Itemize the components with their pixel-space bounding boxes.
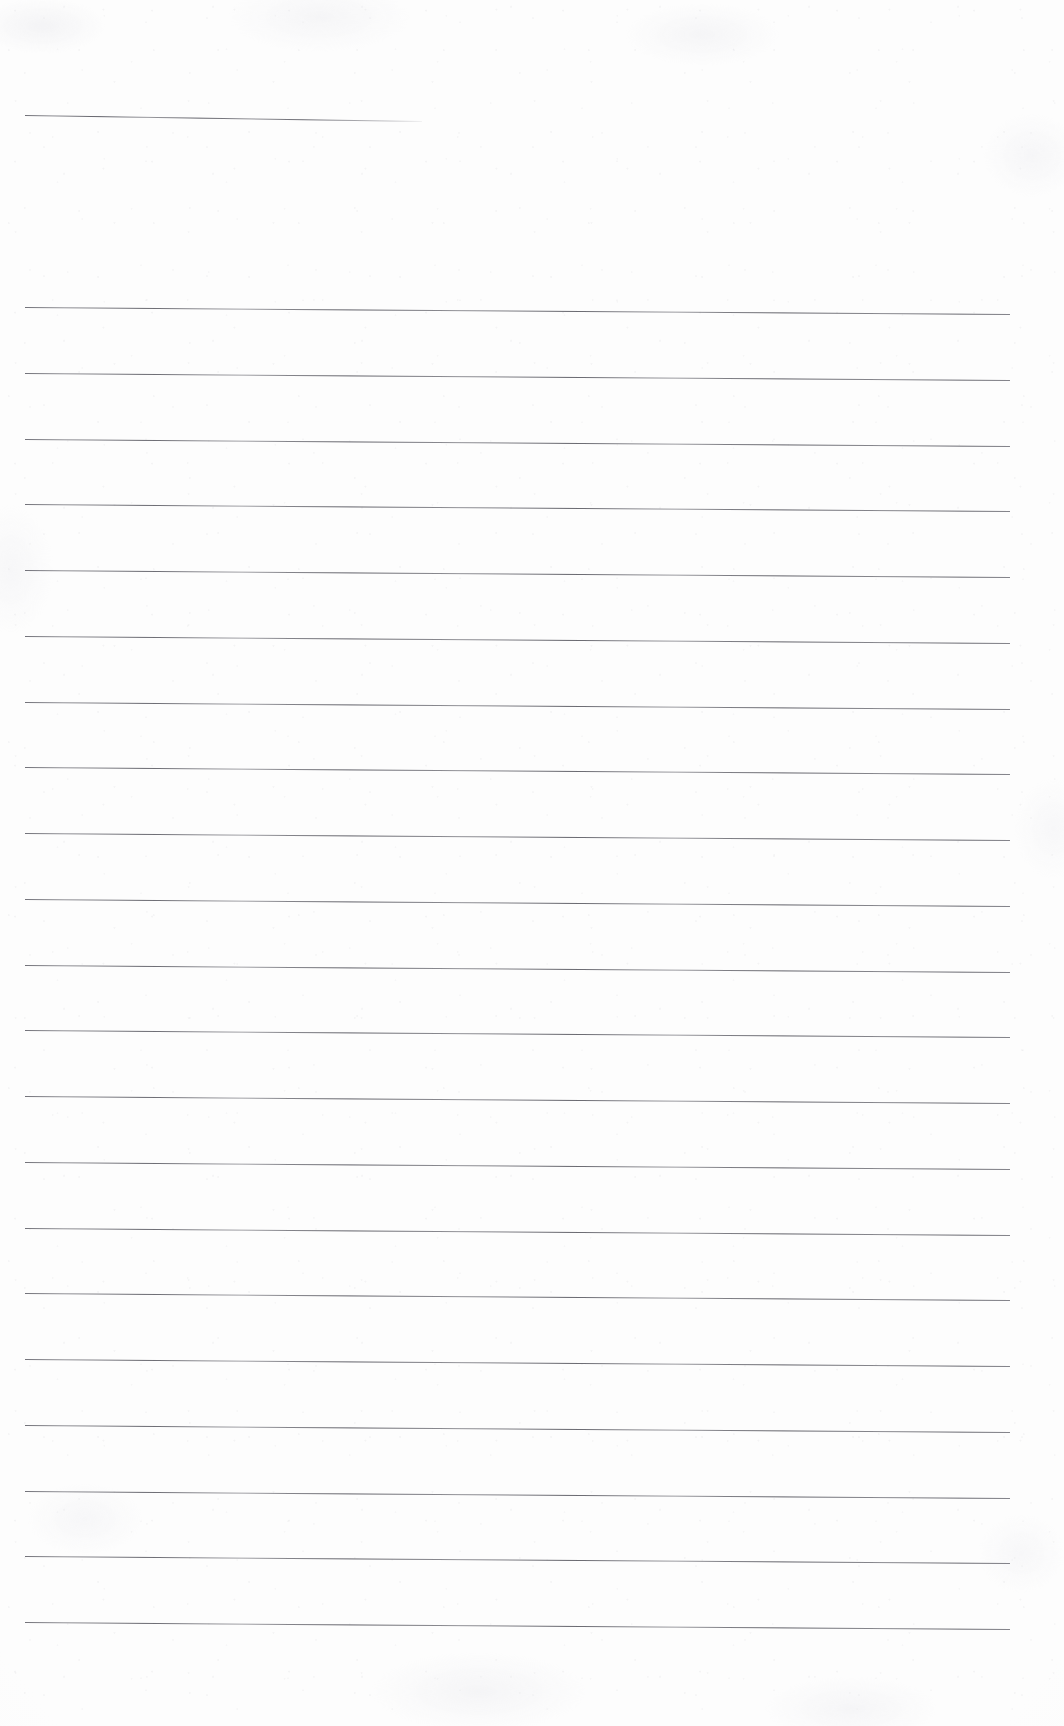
writing-area[interactable]	[25, 290, 1010, 1635]
notebook-page	[0, 0, 1064, 1726]
top-short-rule	[25, 115, 422, 122]
